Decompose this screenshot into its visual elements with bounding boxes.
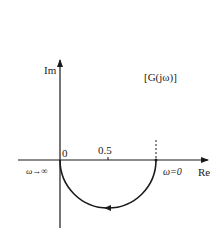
omega-zero-point [155, 159, 158, 162]
omega-infinity-label: ω→∞ [26, 166, 48, 176]
direction-arrow-icon [104, 205, 111, 211]
tick-label-0.5: 0.5 [98, 144, 112, 156]
imaginary-axis-label: Im [44, 64, 57, 76]
omega-zero-label: ω=0 [163, 166, 182, 177]
origin-label: 0 [62, 147, 68, 159]
plot-title: [G(jω)] [144, 71, 177, 84]
nyquist-curve [60, 160, 156, 208]
nyquist-diagram: Im Re 0 0.5 [G(jω)] ω→∞ ω=0 [0, 0, 224, 240]
real-axis-label: Re [198, 166, 210, 178]
